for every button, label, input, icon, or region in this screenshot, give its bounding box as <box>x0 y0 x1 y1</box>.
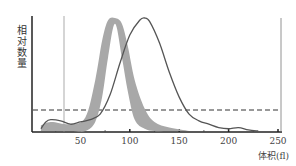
x-tick-label: 150 <box>171 136 188 146</box>
x-tick-label: 100 <box>121 136 138 146</box>
y-axis-label: 相对数量 <box>16 25 28 69</box>
x-tick-label: 200 <box>220 136 237 146</box>
x-axis-label: 体积(fl) <box>258 149 289 162</box>
x-tick-label: 50 <box>75 136 86 146</box>
normal-range-band <box>41 17 189 131</box>
histogram-chart: 相对数量 50100150200250 体积(fl) <box>0 0 296 166</box>
sample-curve <box>41 18 258 131</box>
x-tick-label: 250 <box>269 136 286 146</box>
chart-plot <box>0 0 296 166</box>
